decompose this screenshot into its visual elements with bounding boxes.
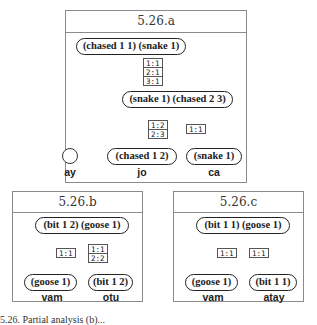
alignment-stack-mid-jo: 1:2 2:3 bbox=[148, 120, 168, 139]
word-label-otu: otu bbox=[94, 291, 128, 303]
word-label-vam-c: vam bbox=[196, 291, 230, 303]
word-label-atay: atay bbox=[254, 291, 294, 303]
leaf-node-atay: (bit 1 1) bbox=[249, 274, 297, 291]
alignment-label: 1:1 bbox=[186, 124, 206, 134]
alignment-stack-right-b: 1:1 2:2 bbox=[88, 244, 108, 263]
alignment-stack-right-c: 1:1 bbox=[249, 248, 269, 258]
alignment-label: 3:1 bbox=[143, 76, 163, 86]
figure-caption: 5.26. Partial analysis (b)... bbox=[0, 314, 105, 325]
leaf-node-vam-b: (goose 1) bbox=[24, 274, 77, 291]
word-label-ca: ca bbox=[199, 166, 229, 178]
leaf-node-ca: (snake 1) bbox=[186, 148, 242, 165]
alignment-stack-mid-ca: 1:1 bbox=[186, 124, 206, 134]
alignment-stack-left-b: 1:1 bbox=[56, 248, 76, 258]
word-label-ay: ay bbox=[55, 166, 85, 178]
word-label-jo: jo bbox=[127, 166, 157, 178]
leaf-node-otu: (bit 1 2) bbox=[88, 274, 133, 291]
leaf-node-vam-c: (goose 1) bbox=[185, 274, 238, 291]
panel-title: 5.26.c bbox=[174, 192, 303, 213]
panel-title: 5.26.b bbox=[13, 192, 142, 213]
alignment-stack-root-mid: 1:1 2:1 3:1 bbox=[143, 58, 163, 86]
alignment-label: 2:3 bbox=[148, 129, 168, 139]
root-node-b: (bit 1 2) (goose 1) bbox=[35, 217, 129, 234]
alignment-label: 2:2 bbox=[88, 253, 108, 263]
alignment-label: 1:1 bbox=[56, 248, 76, 258]
alignment-stack-left-c: 1:1 bbox=[217, 248, 237, 258]
empty-leaf-node bbox=[62, 148, 78, 164]
leaf-node-jo: (chased 1 2) bbox=[107, 148, 177, 165]
alignment-label: 1:1 bbox=[217, 248, 237, 258]
mid-node-a: (snake 1) (chased 2 3) bbox=[122, 91, 233, 108]
alignment-label: 1:1 bbox=[249, 248, 269, 258]
root-node-c: (bit 1 1) (goose 1) bbox=[196, 217, 290, 234]
panel-title: 5.26.a bbox=[66, 11, 246, 33]
word-label-vam-b: vam bbox=[35, 291, 69, 303]
root-node-a: (chased 1 1) (snake 1) bbox=[76, 38, 186, 55]
